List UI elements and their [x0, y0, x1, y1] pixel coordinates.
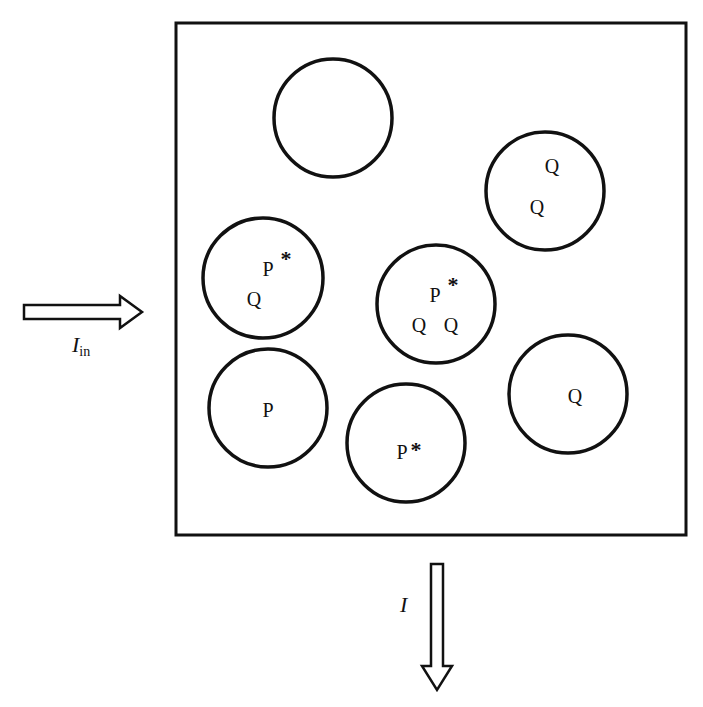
excited-state-star-icon: * — [448, 272, 459, 297]
species-p-label: P — [429, 284, 440, 306]
cell-q: Q — [509, 335, 627, 453]
species-p-label: P — [396, 441, 407, 463]
species-p-label: P — [262, 399, 273, 421]
cell-q-q: QQ — [486, 132, 604, 250]
species-q-label: Q — [247, 288, 262, 310]
cell-pstar-q: P*Q — [203, 218, 323, 338]
cell-pstar: P* — [347, 384, 465, 502]
output-arrow-icon — [422, 564, 452, 690]
container-box — [176, 23, 686, 535]
species-p-label: P — [262, 258, 273, 280]
cell-circle — [274, 59, 392, 177]
excited-state-star-icon: * — [281, 246, 292, 271]
species-q-label: Q — [568, 385, 583, 407]
input-arrow-icon — [24, 296, 142, 328]
cell-circle — [486, 132, 604, 250]
species-q-label: Q — [530, 196, 545, 218]
cell-p: P — [209, 349, 327, 467]
species-q-label: Q — [412, 314, 427, 336]
diagram-canvas: Iin I QQP*QP*QQPP*Q — [0, 0, 703, 707]
cell-pstar-q-q: P*QQ — [377, 245, 495, 363]
input-intensity-label: Iin — [71, 332, 90, 359]
species-q-label: Q — [444, 314, 459, 336]
excited-state-star-icon: * — [411, 437, 422, 462]
output-intensity-label: I — [399, 592, 409, 617]
cell-empty — [274, 59, 392, 177]
species-q-label: Q — [545, 155, 560, 177]
